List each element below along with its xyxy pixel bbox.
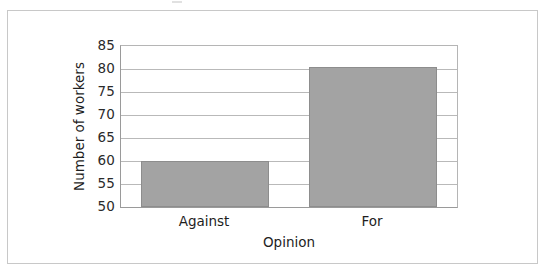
y-axis-tick-label: 85 [88, 39, 115, 53]
x-axis-tick-label: For [288, 212, 456, 230]
x-axis-tick-labels: AgainstFor [120, 212, 458, 232]
scan-artifact [172, 1, 182, 3]
y-axis-tick-label: 60 [88, 154, 115, 168]
y-axis-tick-label: 55 [88, 177, 115, 191]
bar [309, 67, 438, 207]
y-axis-tick-label: 75 [88, 85, 115, 99]
y-axis-tick-label: 65 [88, 131, 115, 145]
x-axis-title: Opinion [120, 233, 458, 251]
y-axis-tick-label: 50 [88, 200, 115, 214]
y-axis-tick-labels: 5055606570758085 [88, 45, 115, 208]
bar [141, 161, 270, 207]
y-axis-tick-label: 80 [88, 62, 115, 76]
plot-area [120, 45, 458, 208]
y-axis-title: Number of workers [70, 45, 88, 208]
y-axis-tick-label: 70 [88, 108, 115, 122]
chart-figure: Number of workers 5055606570758085 Again… [0, 0, 548, 275]
x-axis-tick-label: Against [120, 212, 288, 230]
